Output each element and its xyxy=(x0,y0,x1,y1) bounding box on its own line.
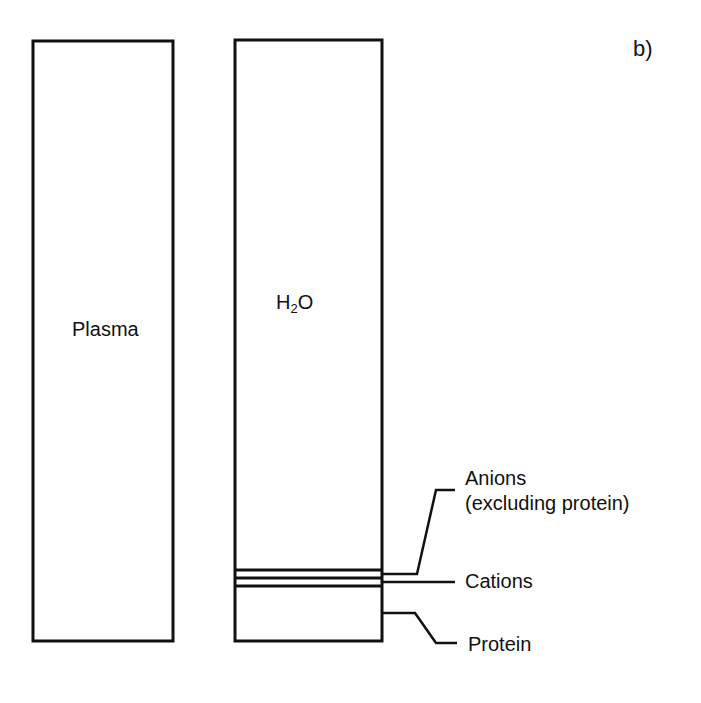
protein-leader xyxy=(382,613,457,643)
cations-label: Cations xyxy=(465,570,533,592)
water-label-h: H xyxy=(276,291,290,313)
plasma-column xyxy=(33,41,173,641)
anions-label: Anions xyxy=(465,467,526,489)
water-label-subscript: 2 xyxy=(290,301,297,316)
anions-sublabel: (excluding protein) xyxy=(465,492,630,514)
water-label-o: O xyxy=(298,291,314,313)
anions-leader xyxy=(382,490,455,574)
water-column xyxy=(235,40,382,641)
panel-label: b) xyxy=(633,38,653,60)
protein-label: Protein xyxy=(468,633,531,655)
water-label: H2O xyxy=(276,291,313,313)
plasma-label: Plasma xyxy=(72,318,139,340)
diagram-lines xyxy=(0,0,701,703)
